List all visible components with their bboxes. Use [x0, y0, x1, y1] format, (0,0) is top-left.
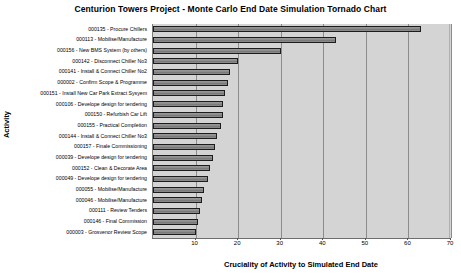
y-axis-tick-label: 000046 - Mobilise/Manufacture	[0, 195, 150, 206]
y-axis-tick-label: 000141 - Install & Connect Chiller No2	[0, 67, 150, 78]
y-axis-tick-label: 000151 - Install New Car Park Extract Sy…	[0, 88, 150, 99]
bar-row	[153, 152, 451, 163]
bar-row	[153, 163, 451, 174]
x-axis-tick-label: 10	[191, 240, 198, 246]
bar-row	[153, 184, 451, 195]
y-axis-tick-labels: 000135 - Procure Chillers000113 - Mobili…	[0, 24, 150, 238]
bar-row	[153, 67, 451, 78]
x-axis-line	[152, 238, 450, 239]
y-axis-tick-label: 000002 - Confirm Scope & Programme	[0, 77, 150, 88]
bar	[153, 26, 421, 32]
bar	[153, 90, 225, 96]
bar-row	[153, 227, 451, 238]
bar-row	[153, 77, 451, 88]
bar-row	[153, 206, 451, 217]
plot-area	[152, 24, 451, 238]
bar	[153, 176, 208, 182]
bar	[153, 80, 228, 86]
x-axis-tick-label: 30	[276, 240, 283, 246]
bar-row	[153, 195, 451, 206]
y-axis-tick-label: 000152 - Clean & Decorate Area	[0, 163, 150, 174]
bar	[153, 48, 281, 54]
bar-row	[153, 35, 451, 46]
x-axis-tick-labels: 10203040506070	[152, 240, 450, 250]
chart-title: Centurion Towers Project - Monte Carlo E…	[0, 4, 461, 14]
y-axis-tick-label: 000111 - Review Tenders	[0, 206, 150, 217]
bar	[153, 197, 202, 203]
x-axis-tick-label: 40	[319, 240, 326, 246]
y-axis-tick-label: 000003 - Grosvenor Review Scope	[0, 227, 150, 238]
y-axis-tick-label: 000155 - Practical Completion	[0, 120, 150, 131]
bar	[153, 155, 213, 161]
x-axis-tick-label: 70	[447, 240, 454, 246]
y-axis-tick-label: 000144 - Install & Connect Chiller No3	[0, 131, 150, 142]
bar	[153, 208, 200, 214]
bar	[153, 58, 238, 64]
y-axis-tick-label: 000049 - Develope design for tendering	[0, 174, 150, 185]
bar-row	[153, 216, 451, 227]
bar-row	[153, 110, 451, 121]
bar-row	[153, 142, 451, 153]
bar-row	[153, 174, 451, 185]
bar	[153, 219, 198, 225]
x-axis-tick-label: 60	[404, 240, 411, 246]
bar	[153, 123, 221, 129]
y-axis-tick-label: 000039 - Develope design for tendering	[0, 152, 150, 163]
y-axis-tick-label: 000156 - New BMS System (by others)	[0, 45, 150, 56]
x-axis-title: Cruciality of Activity to Simulated End …	[152, 260, 450, 269]
bar	[153, 165, 210, 171]
y-axis-tick-label: 000142 - Disconnect Chiller No3	[0, 56, 150, 67]
plot-right-border	[449, 24, 450, 239]
y-axis-tick-label: 000106 - Develope design for tendering	[0, 99, 150, 110]
bar	[153, 133, 217, 139]
y-axis-tick-label: 000113 - Mobilise/Manufacture	[0, 35, 150, 46]
gridline-70	[451, 24, 452, 238]
y-axis-tick-label: 000150 - Refurbish Car Lift	[0, 110, 150, 121]
bar	[153, 112, 223, 118]
y-axis-tick-label: 000157 - Finale Commissioning	[0, 142, 150, 153]
bar-row	[153, 88, 451, 99]
bar-row	[153, 99, 451, 110]
bar-row	[153, 120, 451, 131]
tornado-chart: Centurion Towers Project - Monte Carlo E…	[0, 0, 461, 276]
bar-row	[153, 24, 451, 35]
bar-row	[153, 45, 451, 56]
bar	[153, 37, 336, 43]
bar	[153, 69, 230, 75]
x-axis-tick-label: 20	[234, 240, 241, 246]
bar	[153, 101, 223, 107]
bar	[153, 144, 215, 150]
y-axis-tick-label: 000135 - Procure Chillers	[0, 24, 150, 35]
bar	[153, 229, 196, 235]
bar-series	[153, 24, 451, 238]
bar-row	[153, 131, 451, 142]
x-axis-tick-label: 50	[362, 240, 369, 246]
y-axis-tick-label: 000146 - Final Commission	[0, 216, 150, 227]
bar	[153, 187, 204, 193]
y-axis-tick-label: 000055 - Mobilise/Manufacture	[0, 184, 150, 195]
bar-row	[153, 56, 451, 67]
